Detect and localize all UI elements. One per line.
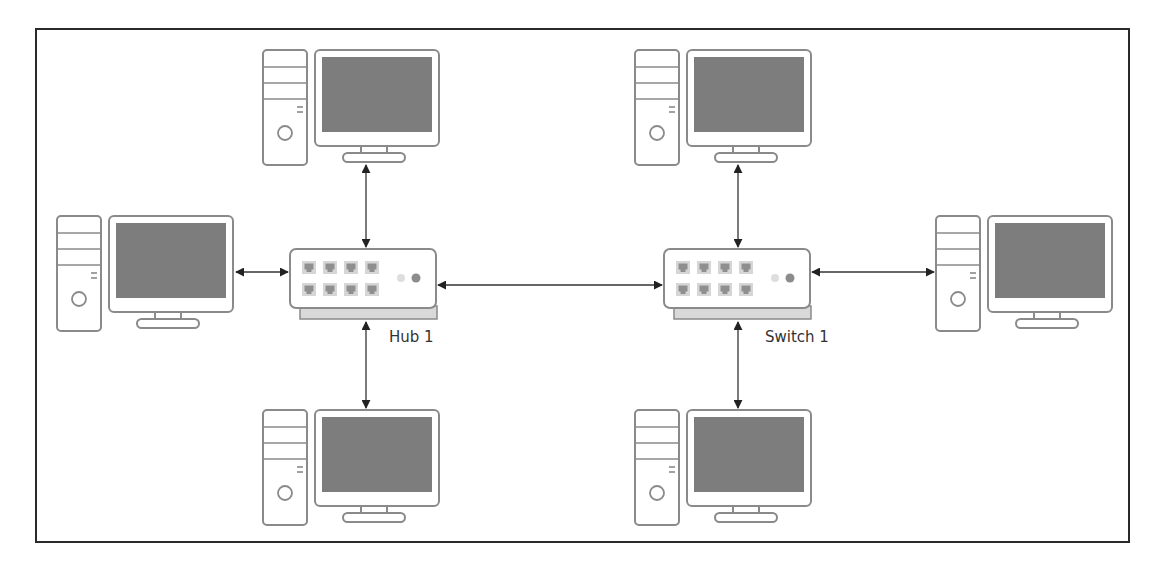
computer-icon: [635, 410, 811, 525]
computer-icon: [263, 410, 439, 525]
hub-icon: [290, 249, 437, 319]
computer-icon: [57, 216, 233, 331]
hub-label: Hub 1: [389, 328, 434, 346]
switch-label: Switch 1: [765, 328, 829, 346]
switch-icon: [664, 249, 811, 319]
computer-icon: [635, 50, 811, 165]
network-diagram: Hub 1 Switch 1: [0, 0, 1165, 566]
computer-icon: [263, 50, 439, 165]
computer-icon: [936, 216, 1112, 331]
